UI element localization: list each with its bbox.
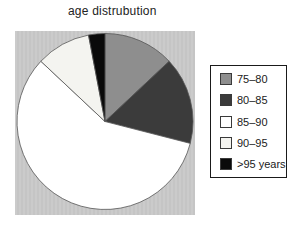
- legend-swatch: [220, 73, 232, 85]
- plot-area: [15, 31, 195, 215]
- pie-chart: [15, 31, 195, 215]
- legend-label: 90–95: [237, 137, 268, 149]
- legend-label: >95 years: [237, 158, 286, 170]
- legend-item: 80–85: [220, 94, 284, 106]
- legend-item: >95 years: [220, 158, 284, 170]
- legend-swatch: [220, 94, 232, 106]
- legend-label: 75–80: [237, 73, 268, 85]
- legend-label: 85–90: [237, 116, 268, 128]
- legend-label: 80–85: [237, 94, 268, 106]
- legend-swatch: [220, 137, 232, 149]
- legend-swatch: [220, 116, 232, 128]
- legend-item: 85–90: [220, 116, 284, 128]
- legend: 75–8080–8585–9090–95>95 years: [210, 65, 287, 178]
- legend-item: 75–80: [220, 73, 284, 85]
- legend-swatch: [220, 158, 232, 170]
- chart-title: age distrubution: [68, 4, 157, 18]
- legend-item: 90–95: [220, 137, 284, 149]
